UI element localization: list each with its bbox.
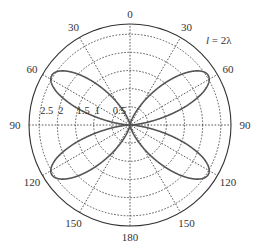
angle-tick-label-30-right: 30 — [181, 21, 193, 33]
angle-tick-label-90-right: 90 — [240, 119, 252, 131]
radial-tick-label: 1.5 — [77, 105, 90, 116]
angle-tick-label-180-bottom: 180 — [122, 231, 139, 243]
angle-tick-label-60-left: 60 — [27, 63, 39, 75]
pattern-annotation: l = 2λ — [206, 34, 232, 46]
angle-tick-label-0-top: 0 — [127, 8, 133, 20]
angle-tick-label-150-left: 150 — [65, 217, 82, 229]
radial-tick-label: 0.5 — [113, 105, 126, 116]
angle-tick-label-30-left: 30 — [68, 21, 80, 33]
angle-tick-label-150-right: 150 — [178, 217, 195, 229]
polar-chart: 0303060609090120120150150180 0.511.522.5… — [0, 0, 259, 249]
radial-tick-label: 1 — [95, 105, 100, 116]
radial-tick-labels: 0.511.522.5 — [40, 105, 126, 116]
angle-tick-label-90-left: 90 — [10, 119, 22, 131]
angle-tick-label-120-right: 120 — [220, 176, 237, 188]
radial-tick-label: 2 — [58, 105, 63, 116]
angle-tick-label-60-right: 60 — [222, 63, 234, 75]
radial-tick-label: 2.5 — [40, 105, 53, 116]
angle-tick-label-120-left: 120 — [24, 176, 41, 188]
